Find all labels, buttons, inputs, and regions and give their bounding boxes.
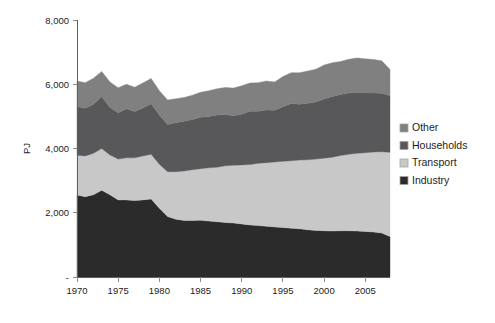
x-tick-label: 1990 [231, 285, 252, 296]
y-tick-label: 6,000 [45, 79, 69, 90]
legend-swatch-other [400, 124, 408, 132]
x-tick-label: 1995 [272, 285, 293, 296]
x-tick-label: 1980 [149, 285, 170, 296]
y-tick-label: 4,000 [45, 143, 69, 154]
chart-figure: -2,0004,0006,0008,0001970197519801985199… [0, 0, 495, 323]
y-tick-label: 2,000 [45, 207, 69, 218]
legend-label-transport: Transport [412, 156, 457, 168]
y-tick-label: - [66, 272, 69, 283]
legend-label-industry: Industry [412, 174, 450, 186]
y-axis-title: PJ [21, 143, 32, 154]
stacked-area-chart: -2,0004,0006,0008,0001970197519801985199… [0, 0, 495, 323]
x-tick-label: 2005 [355, 285, 376, 296]
legend-label-other: Other [412, 121, 439, 133]
legend-label-households: Households [412, 139, 467, 151]
legend-swatch-transport [400, 159, 408, 167]
y-tick-label: 8,000 [45, 15, 69, 26]
x-tick-label: 1970 [66, 285, 87, 296]
x-tick-label: 2000 [314, 285, 335, 296]
x-tick-label: 1975 [108, 285, 129, 296]
x-tick-label: 1985 [190, 285, 211, 296]
legend-swatch-industry [400, 177, 408, 185]
legend-swatch-households [400, 142, 408, 150]
